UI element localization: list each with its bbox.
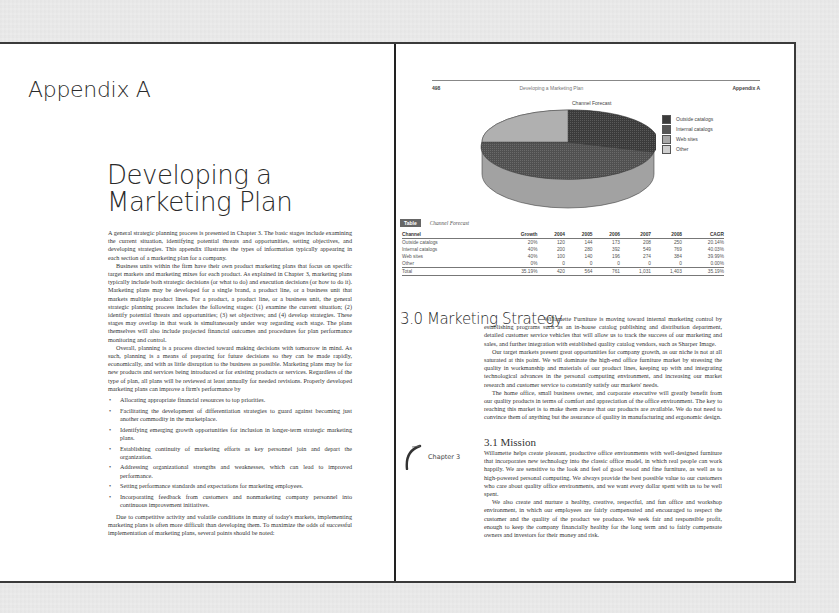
chapter-tab-label: Chapter 3 xyxy=(428,453,460,461)
chart-title: Channel Forecast xyxy=(572,100,611,106)
table-cell: Outside catalogs xyxy=(402,239,494,247)
table-cell: 0 xyxy=(565,260,593,268)
table-row: Other 0% 0 0 0 0 0 0.00% xyxy=(402,260,724,268)
list-item: Setting performance standards and expect… xyxy=(108,482,352,490)
legend-item: Internal catalogs xyxy=(662,124,713,134)
table-cell: Total xyxy=(402,268,494,276)
paragraph: Overall, planning is a process directed … xyxy=(108,344,352,393)
table-cell: 549 xyxy=(620,246,651,253)
page-number: 498 xyxy=(432,85,440,91)
table-caption: Table Channel Forecast xyxy=(400,219,469,227)
table-cell: 564 xyxy=(565,268,593,276)
list-item: Addressing organizational strengths and … xyxy=(108,463,352,479)
table-cell: 769 xyxy=(651,246,682,253)
page-curl-icon xyxy=(404,444,422,470)
table-row: Web sites 40% 100 140 196 274 384 39.99% xyxy=(402,253,724,260)
table-cell: 384 xyxy=(651,253,682,260)
table-cell: 120 xyxy=(537,239,565,247)
table-cell: 144 xyxy=(565,239,593,247)
section-heading-mission: 3.1 Mission xyxy=(484,436,536,448)
marketing-strategy-text: Willamette Furniture is moving toward in… xyxy=(484,315,722,422)
table-cell: Web sites xyxy=(402,253,494,260)
list-item: Facilitating the development of differen… xyxy=(108,407,352,423)
paragraph: Business units within the firm have thei… xyxy=(108,262,352,344)
legend-item: Web sites xyxy=(662,134,713,144)
table-cell: 1,403 xyxy=(651,268,682,276)
table-cell: 40% xyxy=(494,253,537,260)
table-cell: 0 xyxy=(620,260,651,268)
table-cell: 274 xyxy=(620,253,651,260)
table-cell: 39.99% xyxy=(682,253,724,260)
pie-chart xyxy=(480,108,656,216)
legend-swatch xyxy=(662,125,671,134)
table-cell: 140 xyxy=(565,253,593,260)
chapter-title: Developing a Marketing Plan xyxy=(107,162,357,216)
table-cell: 392 xyxy=(592,246,620,253)
pie-chart-graphic xyxy=(480,108,656,212)
table-cell: 35.19% xyxy=(682,268,724,276)
chart-legend: Outside catalogs Internal catalogs Web s… xyxy=(662,114,713,154)
legend-label: Outside catalogs xyxy=(676,116,713,122)
table-cell: 200 xyxy=(537,246,565,253)
list-item: Establishing continuity of marketing eff… xyxy=(108,445,352,461)
table-badge: Table xyxy=(400,219,421,227)
table-caption-text: Channel Forecast xyxy=(430,220,469,226)
right-page: 498 Developing a Marketing Plan Appendix… xyxy=(396,44,794,581)
table-cell: 40% xyxy=(494,246,537,253)
paragraph: A general strategic planning process is … xyxy=(108,229,352,262)
running-head: 498 Developing a Marketing Plan Appendix… xyxy=(432,80,760,91)
legend-swatch xyxy=(662,115,671,124)
table-cell: 20.14% xyxy=(682,239,724,247)
table-cell: 0% xyxy=(494,260,537,268)
table-cell: 1,031 xyxy=(620,268,651,276)
table-total-row: Total 35.19% 420 564 761 1,031 1,403 35.… xyxy=(402,268,724,276)
legend-swatch xyxy=(662,145,671,154)
table-cell: 250 xyxy=(651,239,682,247)
table-cell: 35.19% xyxy=(494,268,537,276)
table-cell: 0 xyxy=(651,260,682,268)
legend-label: Web sites xyxy=(676,136,698,142)
table-row: Internal catalogs 40% 200 280 392 549 76… xyxy=(402,246,724,253)
table-cell: 173 xyxy=(592,239,620,247)
chapter-cross-reference: Chapter 3 xyxy=(404,444,460,470)
legend-label: Other xyxy=(676,146,689,152)
table-cell: 280 xyxy=(565,246,593,253)
paragraph: Willamette helps create pleasant, produc… xyxy=(484,449,722,498)
paragraph: The home office, small business owner, a… xyxy=(484,389,722,422)
table-cell: 0 xyxy=(592,260,620,268)
benefits-list: Allocating appropriate financial resourc… xyxy=(108,396,352,509)
book-spread: Appendix A Developing a Marketing Plan A… xyxy=(0,42,796,583)
table-cell: 0.00% xyxy=(682,260,724,268)
legend-item: Other xyxy=(662,144,713,154)
left-page: Appendix A Developing a Marketing Plan A… xyxy=(0,44,394,581)
table-cell: 0 xyxy=(537,260,565,268)
appendix-title: Appendix A xyxy=(28,77,151,102)
list-item: Incorporating feedback from customers an… xyxy=(108,493,352,509)
table-cell: Internal catalogs xyxy=(402,246,494,253)
legend-label: Internal catalogs xyxy=(676,126,713,132)
table-cell: 420 xyxy=(537,268,565,276)
table-cell: 196 xyxy=(592,253,620,260)
running-head-title: Developing a Marketing Plan xyxy=(519,85,583,91)
table-row: Outside catalogs 20% 120 144 173 208 250… xyxy=(402,239,724,247)
list-item: Allocating appropriate financial resourc… xyxy=(108,396,352,404)
table-cell: Other xyxy=(402,260,494,268)
paragraph: Willamette Furniture is moving toward in… xyxy=(484,315,722,348)
paragraph: Our target markets present great opportu… xyxy=(484,348,722,389)
left-body-text: A general strategic planning process is … xyxy=(108,229,352,537)
legend-swatch xyxy=(662,135,671,144)
channel-forecast-table: Channel Growth 2004 2005 2006 2007 2008 … xyxy=(402,232,724,276)
paragraph: We also create and nurture a healthy, cr… xyxy=(484,498,722,539)
table-cell: 208 xyxy=(620,239,651,247)
list-item: Identifying emerging growth opportunitie… xyxy=(108,426,352,442)
legend-item: Outside catalogs xyxy=(662,114,713,124)
table-cell: 20% xyxy=(494,239,537,247)
running-head-section: Appendix A xyxy=(732,85,760,91)
table-cell: 100 xyxy=(537,253,565,260)
table-cell: 40.03% xyxy=(682,246,724,253)
mission-text: Willamette helps create pleasant, produc… xyxy=(484,449,722,539)
paragraph: Due to competitive activity and volatile… xyxy=(108,513,352,538)
table-cell: 761 xyxy=(592,268,620,276)
